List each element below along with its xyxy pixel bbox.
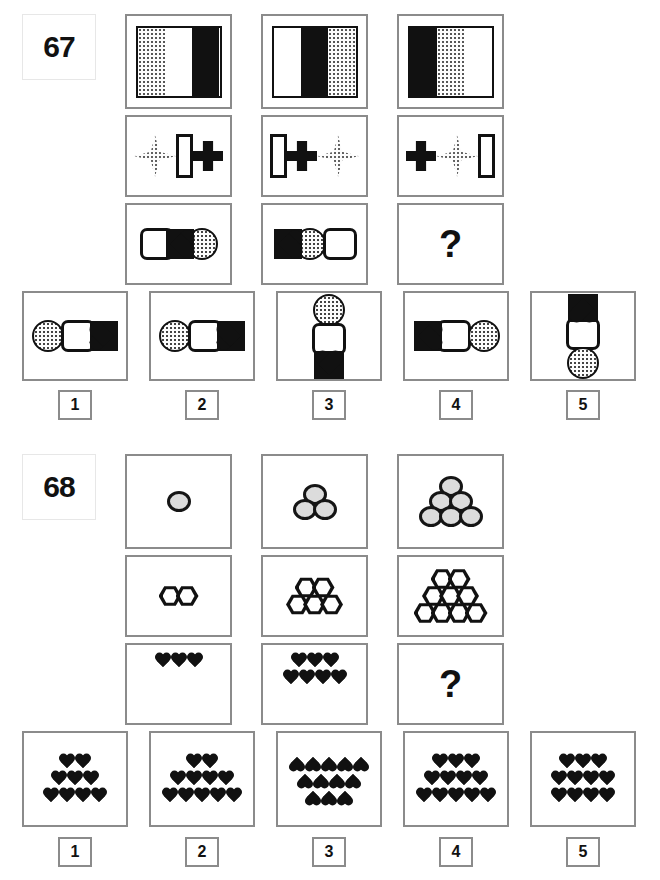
heart-black-icon — [166, 229, 194, 259]
option-content — [151, 733, 253, 825]
circle-icon — [167, 491, 191, 512]
heart-icon — [479, 788, 497, 805]
circle-dotted-icon — [159, 320, 191, 352]
matrix-cell-r1c3[interactable] — [397, 14, 504, 109]
stripe-white — [274, 28, 301, 96]
glyph-row — [169, 494, 189, 509]
glyph-row — [432, 754, 480, 771]
option-box-4[interactable] — [403, 291, 509, 381]
stripe-black — [410, 28, 437, 96]
shape-row — [159, 320, 246, 352]
option-box-3[interactable] — [276, 731, 382, 827]
option-number-1[interactable]: 1 — [58, 390, 92, 420]
matrix-cell-r3c3-question[interactable]: ? — [397, 643, 504, 725]
option-number-2[interactable]: 2 — [185, 837, 219, 867]
option-content — [24, 733, 126, 825]
option-box-2[interactable] — [149, 731, 255, 827]
stripe-black — [192, 28, 219, 96]
diamond-dotted-icon — [134, 135, 176, 177]
heart-icon — [336, 788, 354, 805]
shape-group — [399, 117, 502, 195]
option-box-1[interactable] — [22, 291, 128, 381]
flag-3 — [399, 16, 502, 107]
option-number-2[interactable]: 2 — [185, 390, 219, 420]
heart-icon — [186, 653, 204, 670]
option-content — [532, 293, 634, 379]
heart-icon — [344, 771, 362, 788]
glyph-row — [295, 502, 335, 517]
heart-black-icon — [90, 321, 118, 351]
heart-black-icon — [568, 294, 598, 322]
matrix-cell-r2c1[interactable] — [125, 555, 232, 637]
matrix-cell-r2c2[interactable] — [261, 555, 368, 637]
shape-row — [140, 228, 218, 260]
square-white-icon — [323, 228, 357, 260]
flag-stripes — [408, 26, 494, 98]
glyph-row — [434, 571, 468, 588]
stripe-dotted — [328, 28, 355, 96]
matrix-cell-r3c3-question[interactable]: ? — [397, 203, 504, 285]
question-slot: ? — [399, 205, 502, 283]
option-box-5[interactable] — [530, 291, 636, 381]
cross-black-icon — [287, 141, 317, 171]
rect-white-icon — [478, 134, 495, 178]
circle-pyramid — [263, 456, 366, 547]
diamond-dotted-icon — [317, 135, 359, 177]
matrix-cell-r1c1[interactable] — [125, 454, 232, 549]
option-box-5[interactable] — [530, 731, 636, 827]
matrix-cell-r3c2[interactable] — [261, 203, 368, 285]
option-number-4[interactable]: 4 — [439, 390, 473, 420]
matrix-cell-r2c2[interactable] — [261, 115, 368, 197]
circle-dotted-icon — [32, 320, 64, 352]
option-number-3[interactable]: 3 — [312, 837, 346, 867]
glyph-row — [59, 754, 91, 771]
heart-icon — [598, 788, 616, 805]
matrix-cell-r2c3[interactable] — [397, 555, 504, 637]
puzzle-68: 68 ? 1 2 3 4 5 — [0, 440, 660, 880]
option-box-1[interactable] — [22, 731, 128, 827]
matrix-cell-r1c2[interactable] — [261, 454, 368, 549]
heart-black-icon — [314, 351, 344, 379]
hexagon-pyramid — [127, 557, 230, 635]
option-number-1[interactable]: 1 — [58, 837, 92, 867]
matrix-cell-r3c1[interactable] — [125, 643, 232, 725]
matrix-cell-r1c2[interactable] — [261, 14, 368, 109]
option-number-4[interactable]: 4 — [439, 837, 473, 867]
option-box-4[interactable] — [403, 731, 509, 827]
heart-icon — [330, 670, 348, 687]
option-box-3[interactable] — [276, 291, 382, 381]
question-slot: ? — [399, 645, 502, 723]
glyph-row — [297, 771, 361, 788]
option-number-3[interactable]: 3 — [312, 390, 346, 420]
heart-icon — [82, 771, 100, 788]
matrix-cell-r1c3[interactable] — [397, 454, 504, 549]
hexagon-pyramid — [263, 557, 366, 635]
matrix-cell-r2c3[interactable] — [397, 115, 504, 197]
option-number-5[interactable]: 5 — [566, 390, 600, 420]
stripe-black — [301, 28, 328, 96]
puzzle-number-badge: 67 — [22, 14, 96, 80]
heart-icon — [225, 788, 243, 805]
glyph-row — [551, 788, 615, 805]
matrix-cell-r2c1[interactable] — [125, 115, 232, 197]
glyph-row — [162, 588, 196, 605]
glyph-row — [289, 754, 369, 771]
option-box-2[interactable] — [149, 291, 255, 381]
circle-dotted-icon — [313, 294, 345, 326]
matrix-cell-r3c2[interactable] — [261, 643, 368, 725]
matrix-cell-r1c1[interactable] — [125, 14, 232, 109]
stripe-dotted — [437, 28, 464, 96]
rect-white-icon — [176, 134, 193, 178]
matrix-cell-r3c1[interactable] — [125, 203, 232, 285]
hexagon-pyramid — [399, 557, 502, 635]
shape-row — [273, 228, 357, 260]
puzzle-67: 67 — [0, 0, 660, 440]
heart-icon — [90, 788, 108, 805]
heart-icon — [471, 771, 489, 788]
heart-black-icon — [414, 321, 442, 351]
glyph-row — [424, 771, 488, 788]
circle-dotted-icon — [567, 347, 599, 379]
shape-row — [413, 320, 500, 352]
glyph-row — [162, 788, 242, 805]
option-number-5[interactable]: 5 — [566, 837, 600, 867]
